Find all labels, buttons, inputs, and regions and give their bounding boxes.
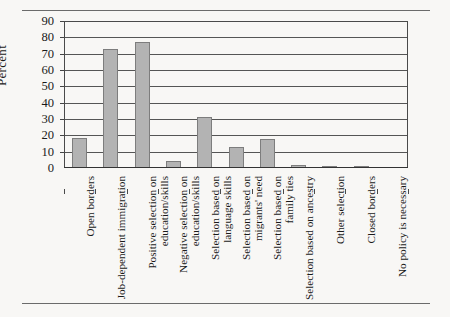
y-tick-label-0: 0 bbox=[48, 162, 54, 175]
x-label-4: Selection based onlanguage skills bbox=[210, 176, 233, 308]
x-label-5: Selection based onmigrants' need bbox=[241, 176, 264, 308]
y-axis-tick-labels: 0102030405060708090 bbox=[0, 0, 60, 317]
y-tick-label-80: 80 bbox=[41, 31, 54, 44]
y-tick-label-10: 10 bbox=[41, 145, 54, 158]
top-horizontal-rule bbox=[22, 10, 430, 11]
plot-frame bbox=[64, 21, 408, 168]
y-tick-label-60: 60 bbox=[41, 64, 54, 77]
x-label-10: No policy is necessary bbox=[397, 176, 409, 308]
x-label-6: Selection based onfamily ties bbox=[272, 176, 295, 308]
y-tick-label-20: 20 bbox=[41, 129, 54, 142]
bar-chart-plot-area bbox=[64, 21, 408, 168]
x-axis-line bbox=[64, 167, 408, 168]
x-label-1: Job-dependent immigration bbox=[116, 176, 128, 308]
x-label-9: Closed borders bbox=[366, 176, 378, 308]
y-tick-label-30: 30 bbox=[41, 113, 54, 126]
x-label-2: Positive selection oneducation/skills bbox=[147, 176, 170, 308]
y-tick-label-70: 70 bbox=[41, 47, 54, 60]
x-label-7: Selection based on ancestry bbox=[304, 176, 316, 308]
x-label-0: Open borders bbox=[85, 176, 97, 308]
x-label-3: Negative selection oneducation/skills bbox=[178, 176, 201, 308]
x-axis-category-labels: Open bordersJob-dependent immigrationPos… bbox=[64, 176, 408, 316]
x-label-8: Other selection bbox=[335, 176, 347, 308]
y-tick-label-90: 90 bbox=[41, 15, 54, 28]
y-tick-label-40: 40 bbox=[41, 96, 54, 109]
y-tick-label-50: 50 bbox=[41, 80, 54, 93]
